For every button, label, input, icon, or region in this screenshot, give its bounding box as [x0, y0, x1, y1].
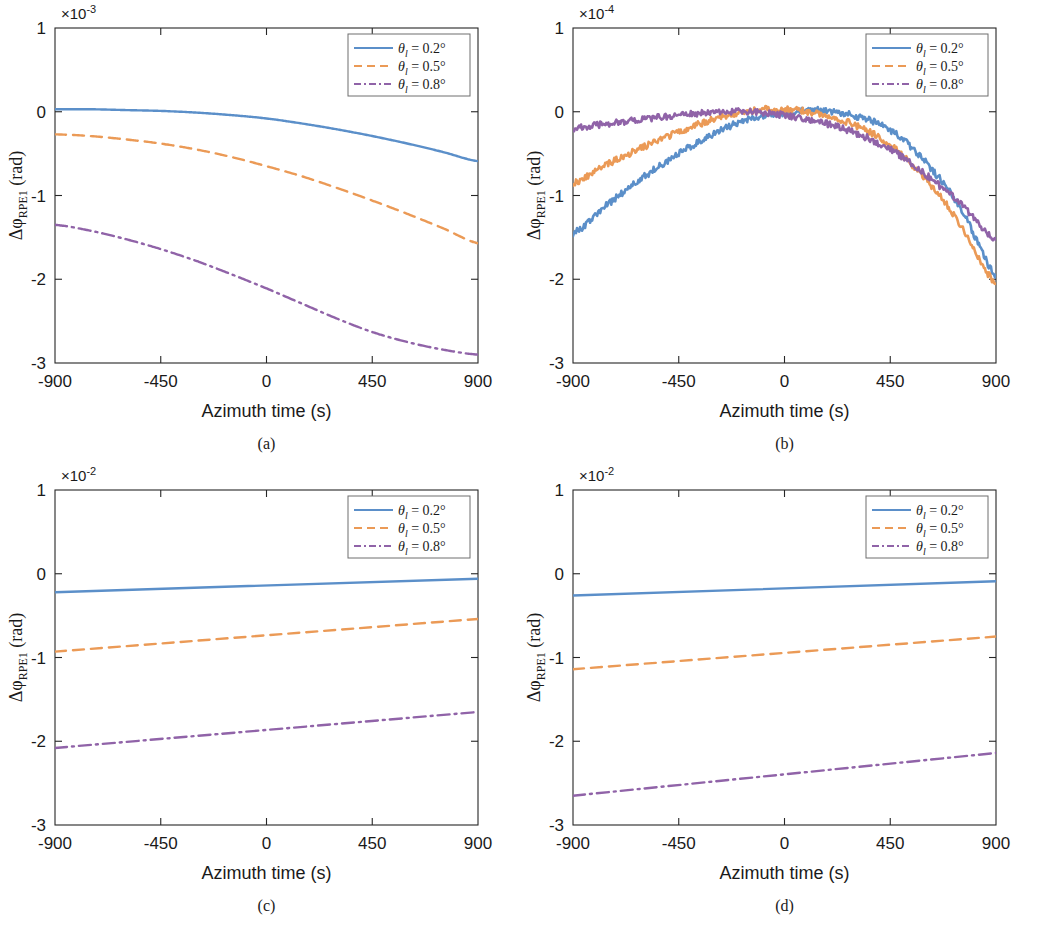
series-line-3 — [55, 712, 478, 748]
y-tick-label: -2 — [31, 732, 46, 751]
x-axis-title: Azimuth time (s) — [201, 863, 331, 883]
y-tick-label: 1 — [37, 481, 46, 500]
y-tick-label: -3 — [31, 816, 46, 835]
panel-caption-b: (b) — [775, 435, 794, 453]
y-tick-label: -2 — [549, 270, 564, 289]
series-line-1 — [573, 107, 996, 277]
y-tick-label: 0 — [555, 565, 564, 584]
x-tick-label: -900 — [38, 372, 72, 391]
x-tick-label: 0 — [262, 834, 271, 853]
series-line-2 — [55, 619, 478, 652]
x-axis-title: Azimuth time (s) — [719, 863, 849, 883]
y-axis-exponent: ×10-4 — [579, 3, 614, 22]
y-tick-label: -1 — [31, 649, 46, 668]
data-curves — [55, 109, 478, 354]
series-line-1 — [55, 109, 478, 161]
series-line-2 — [573, 637, 996, 670]
series-line-2 — [573, 106, 996, 284]
series-line-2 — [55, 134, 478, 243]
panel-caption-c: (c) — [258, 897, 276, 915]
y-tick-label: -1 — [549, 649, 564, 668]
x-tick-label: 900 — [982, 834, 1010, 853]
chart-panel-a: ×10-310-1-2-3-900-4500450900Azimuth time… — [0, 0, 518, 462]
y-tick-label: -1 — [31, 187, 46, 206]
figure-four-panel: ×10-310-1-2-3-900-4500450900Azimuth time… — [0, 0, 1037, 929]
x-tick-label: 0 — [262, 372, 271, 391]
y-tick-label: 0 — [37, 565, 46, 584]
x-tick-label: -900 — [556, 834, 590, 853]
y-axis-title: ΔφRPE1 (rad) — [524, 151, 548, 240]
series-line-1 — [573, 581, 996, 595]
x-tick-label: 0 — [780, 372, 789, 391]
y-tick-label: 0 — [555, 103, 564, 122]
series-line-3 — [55, 225, 478, 355]
series-line-1 — [55, 579, 478, 592]
y-tick-label: -3 — [549, 354, 564, 373]
x-tick-label: 450 — [876, 834, 904, 853]
x-tick-label: -900 — [556, 372, 590, 391]
x-axis-title: Azimuth time (s) — [201, 401, 331, 421]
x-axis-title: Azimuth time (s) — [719, 401, 849, 421]
data-curves — [573, 106, 996, 284]
y-axis-title: ΔφRPE1 (rad) — [6, 613, 30, 702]
y-axis-exponent: ×10-2 — [61, 465, 96, 484]
y-axis-exponent: ×10-2 — [579, 465, 614, 484]
x-tick-label: -450 — [662, 372, 696, 391]
x-tick-label: 450 — [358, 372, 386, 391]
y-tick-label: 1 — [555, 19, 564, 38]
x-tick-label: 0 — [780, 834, 789, 853]
y-tick-label: -1 — [549, 187, 564, 206]
y-axis-title: ΔφRPE1 (rad) — [524, 613, 548, 702]
data-curves — [573, 581, 996, 795]
x-tick-label: -450 — [144, 372, 178, 391]
panel-caption-d: (d) — [775, 897, 794, 915]
series-line-3 — [573, 753, 996, 796]
y-tick-label: -3 — [31, 354, 46, 373]
x-tick-label: 900 — [982, 372, 1010, 391]
x-tick-label: 900 — [464, 372, 492, 391]
chart-panel-d: ×10-210-1-2-3-900-4500450900Azimuth time… — [518, 462, 1036, 924]
chart-panel-b: ×10-410-1-2-3-900-4500450900Azimuth time… — [518, 0, 1036, 462]
panel-caption-a: (a) — [258, 435, 276, 453]
data-curves — [55, 579, 478, 748]
y-tick-label: -2 — [549, 732, 564, 751]
y-tick-label: 0 — [37, 103, 46, 122]
x-tick-label: 450 — [876, 372, 904, 391]
y-axis-exponent: ×10-3 — [61, 3, 96, 22]
y-tick-label: 1 — [555, 481, 564, 500]
y-axis-title: ΔφRPE1 (rad) — [6, 151, 30, 240]
x-tick-label: -450 — [662, 834, 696, 853]
y-tick-label: -2 — [31, 270, 46, 289]
y-tick-label: -3 — [549, 816, 564, 835]
x-tick-label: 450 — [358, 834, 386, 853]
x-tick-label: -450 — [144, 834, 178, 853]
chart-panel-c: ×10-210-1-2-3-900-4500450900Azimuth time… — [0, 462, 518, 924]
x-tick-label: -900 — [38, 834, 72, 853]
y-tick-label: 1 — [37, 19, 46, 38]
x-tick-label: 900 — [464, 834, 492, 853]
